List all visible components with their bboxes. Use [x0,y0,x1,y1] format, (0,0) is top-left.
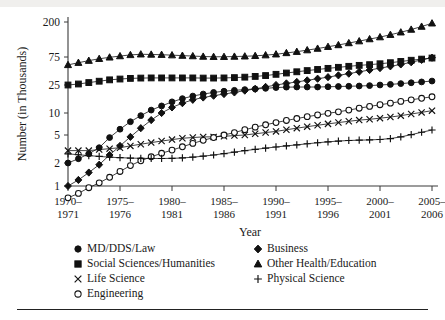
open-circle-marker [388,100,394,106]
open-circle-marker [190,140,196,146]
filled-circle-marker [107,135,113,141]
plus-marker [220,150,227,157]
filled-square-marker [315,67,321,73]
legend-label: Social Sciences/Humanities [87,257,216,269]
filled-triangle-marker [429,20,436,26]
filled-diamond-marker [254,245,261,253]
open-circle-marker [76,191,82,197]
legend-label: Physical Science [267,272,345,285]
plus-marker [283,142,290,149]
filled-diamond-marker [252,85,259,92]
open-circle-marker [86,185,92,191]
plus-marker [116,154,123,161]
filled-square-marker [169,75,175,81]
filled-square-marker [346,63,352,69]
filled-square-marker [242,74,248,80]
open-circle-marker [419,95,425,101]
legend-item-md-dds-law[interactable]: MD/DDS/Law [75,242,156,254]
open-circle-marker [127,163,133,169]
plus-marker [179,154,186,161]
open-circle-marker [398,99,404,105]
filled-circle-marker [336,84,342,90]
filled-circle-marker [356,83,362,89]
legend-label: Other Health/Education [267,257,377,269]
legend-item-other-health-education[interactable]: Other Health/Education [254,257,377,269]
x-axis-tick-label-line1: 1995– [314,195,342,207]
legend-item-social-sciences-humanities[interactable]: Social Sciences/Humanities [75,257,216,269]
x-axis-tick-label-line2: 1991 [265,208,287,220]
filled-circle-marker [377,82,383,88]
filled-circle-marker [325,84,331,90]
filled-diamond-marker [169,104,176,111]
filled-square-marker [86,80,92,86]
open-circle-marker [252,124,258,130]
filled-triangle-marker [254,260,262,267]
plus-marker [210,151,217,158]
x-axis-tick-label-line1: 2005– [418,195,445,207]
filled-circle-marker [138,113,144,119]
x-axis-tick-label-line2: 1996 [317,208,340,220]
plus-marker [158,155,165,162]
open-circle-marker [273,120,279,126]
filled-diamond-marker [85,169,92,176]
filled-circle-marker [346,83,352,89]
legend-item-business[interactable]: Business [254,242,308,254]
open-circle-marker [346,107,352,113]
filled-circle-marker [388,81,394,87]
filled-diamond-marker [293,78,300,85]
open-circle-marker [180,144,186,150]
legend-item-engineering[interactable]: Engineering [75,287,144,300]
legend-label: Life Science [87,272,145,284]
plus-marker [252,146,259,153]
open-circle-marker [304,114,310,120]
filled-diamond-marker [158,109,165,116]
filled-circle-marker [148,107,154,113]
plus-marker [262,145,269,152]
plus-marker [168,155,175,162]
open-circle-marker [263,122,269,128]
plus-marker [335,137,342,144]
filled-square-marker [138,75,144,81]
plus-marker [231,149,238,156]
legend-label: Engineering [87,287,143,300]
x-axis-tick-label-line2: 1981 [161,208,183,220]
plus-marker [304,140,311,147]
filled-circle-marker [127,119,133,125]
filled-diamond-marker [75,176,82,183]
chart-svg: 2007525105211970–19711975–19761980–19811… [0,0,445,240]
plus-marker [345,137,352,144]
x-axis-title: Year [239,225,261,239]
open-circle-marker [284,118,290,124]
filled-square-marker [273,71,279,77]
figure-chart-degrees-by-field: 2007525105211970–19711975–19761980–19811… [0,0,445,320]
filled-circle-marker [117,126,123,132]
y-axis-tick-label: 1 [54,180,60,192]
filled-circle-marker [65,160,71,166]
plus-marker [376,136,383,143]
filled-circle-marker [159,103,165,109]
plus-marker [418,129,425,136]
legend-item-physical-science[interactable]: Physical Science [254,272,344,285]
open-circle-marker [429,94,435,100]
filled-circle-marker [75,246,81,252]
open-circle-marker [211,135,217,141]
filled-circle-marker [429,78,435,84]
open-circle-marker [232,130,238,136]
plus-marker [189,154,196,161]
legend-item-life-science[interactable]: Life Science [75,272,145,284]
filled-circle-marker [304,84,310,90]
y-axis-tick-label: 10 [49,107,61,119]
filled-square-marker [221,75,227,81]
open-circle-marker [408,97,414,103]
open-circle-marker [200,137,206,143]
open-circle-marker [356,105,362,111]
plus-marker [428,126,435,133]
y-axis-tick-label: 2 [54,157,60,169]
filled-square-marker [65,82,71,88]
open-circle-marker [336,109,342,115]
x-axis-tick-label-line2: 1971 [57,208,79,220]
filled-circle-marker [398,81,404,87]
filled-square-marker [252,74,258,80]
plus-marker [64,150,71,157]
x-axis-tick-label-line1: 1985– [210,195,238,207]
